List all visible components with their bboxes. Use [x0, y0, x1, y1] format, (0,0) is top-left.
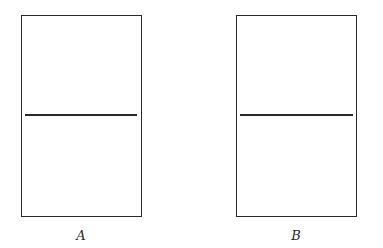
panel-a-rectangle: [21, 15, 142, 217]
panel-b-label: B: [276, 228, 316, 244]
panel-b-rectangle: [236, 15, 357, 217]
panel-a-divider-line: [25, 114, 137, 116]
panel-b-divider-line: [240, 114, 353, 116]
panel-a-label: A: [61, 228, 101, 244]
